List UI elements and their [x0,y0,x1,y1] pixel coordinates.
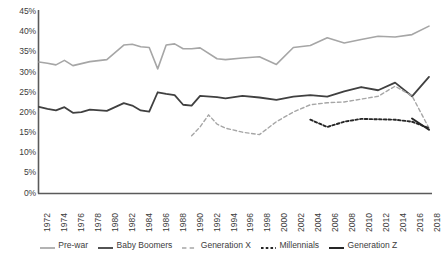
legend-item-generation-x[interactable]: Generation X [182,240,251,250]
x-axis-tick-label: 2004 [314,213,323,232]
x-axis-tick-label: 1988 [179,213,188,232]
x-axis-tick-label: 1994 [230,213,239,232]
x-axis-tick-label: 1998 [263,213,272,232]
legend-item-pre-war[interactable]: Pre-war [40,240,88,250]
legend-label: Baby Boomers [117,240,173,250]
x-axis-tick-label: 1980 [111,213,120,232]
legend-label: Generation X [201,240,251,250]
x-axis-tick-label: 1984 [145,213,154,232]
legend-item-generation-z[interactable]: Generation Z [329,240,397,250]
x-axis-tick-label: 1990 [196,213,205,232]
x-axis-tick-label: 2000 [280,213,289,232]
x-axis-tick-label: 2014 [399,213,408,232]
x-axis-tick-label: 2008 [348,213,357,232]
legend-label: Pre-war [58,240,88,250]
x-axis-tick-label: 1992 [213,213,222,232]
x-axis-tick-label: 2002 [297,213,306,232]
legend-label: Generation Z [348,240,398,250]
x-axis-tick-label: 1972 [43,213,52,232]
x-axis-tick-label: 2016 [416,213,425,232]
x-axis-tick-label: 1986 [162,213,171,232]
x-axis-tick-label: 2018 [433,213,442,232]
legend-label: Millennials [279,240,319,250]
x-axis-tick-label: 1996 [246,213,255,232]
x-axis-tick-label: 2006 [331,213,340,232]
legend-item-millennials[interactable]: Millennials [261,240,319,250]
x-axis-tick-label: 1978 [94,213,103,232]
x-axis-tick-label: 1976 [77,213,86,232]
x-axis-tick-label: 2012 [382,213,391,232]
legend-item-baby-boomers[interactable]: Baby Boomers [98,240,172,250]
x-axis-tick-label: 1982 [128,213,137,232]
x-axis-tick-label: 1974 [60,213,69,232]
chart-legend: Pre-warBaby BoomersGeneration XMillennia… [0,237,437,253]
x-axis-tick-label: 2010 [365,213,374,232]
